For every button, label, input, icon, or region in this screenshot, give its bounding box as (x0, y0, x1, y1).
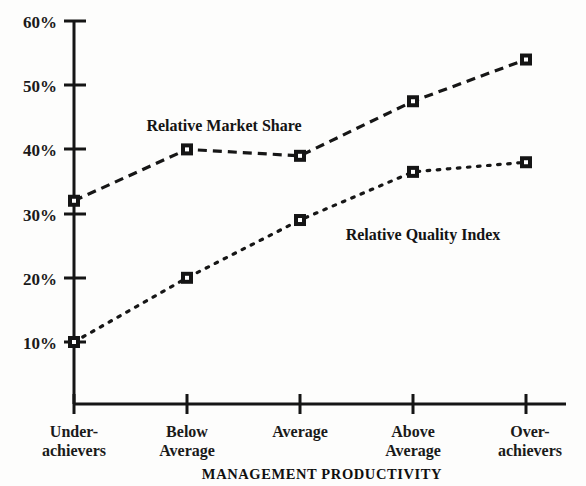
data-point-marker-center (298, 218, 302, 222)
data-point-marker-center (524, 160, 528, 164)
y-tick-label-50: 50% (23, 77, 57, 96)
x-axis-labels: Under- achievers Below Average Average A… (42, 423, 562, 460)
series-relative-quality-index-line (74, 162, 526, 342)
series-relative-quality-index-markers (68, 156, 532, 348)
x-tick-label-3-line2: Average (385, 442, 441, 460)
chart-page: 60% 50% 40% 30% 20% 10% Under- achievers… (0, 0, 586, 486)
x-tick-label-0-line2: achievers (42, 442, 106, 459)
data-point-marker-center (298, 154, 302, 158)
data-point-marker-center (411, 170, 415, 174)
data-point-marker-center (72, 340, 76, 344)
data-point-marker-center (411, 99, 415, 103)
y-axis-labels: 60% 50% 40% 30% 20% 10% (23, 13, 57, 353)
line-chart: 60% 50% 40% 30% 20% 10% Under- achievers… (0, 0, 586, 486)
y-tick-label-30: 30% (23, 206, 57, 225)
data-point-marker-center (185, 147, 189, 151)
data-point-marker-center (524, 58, 528, 62)
x-tick-label-2-line1: Average (272, 423, 328, 441)
y-tick-label-20: 20% (23, 270, 57, 289)
data-point-marker-center (185, 276, 189, 280)
x-tick-label-0-line1: Under- (50, 423, 98, 440)
annotation-relative-market-share: Relative Market Share (146, 117, 301, 134)
x-tick-label-1-line2: Average (159, 442, 215, 460)
y-tick-label-10: 10% (23, 334, 57, 353)
data-point-marker-center (72, 199, 76, 203)
x-tick-label-1-line1: Below (166, 423, 208, 440)
annotation-relative-quality-index: Relative Quality Index (346, 226, 501, 244)
y-tick-label-60: 60% (23, 13, 57, 32)
x-tick-label-4-line2: achievers (498, 442, 562, 459)
x-axis-title: MANAGEMENT PRODUCTIVITY (202, 466, 442, 482)
x-tick-label-3-line1: Above (391, 423, 435, 440)
x-tick-label-4-line1: Over- (510, 423, 549, 440)
y-tick-label-40: 40% (23, 141, 57, 160)
